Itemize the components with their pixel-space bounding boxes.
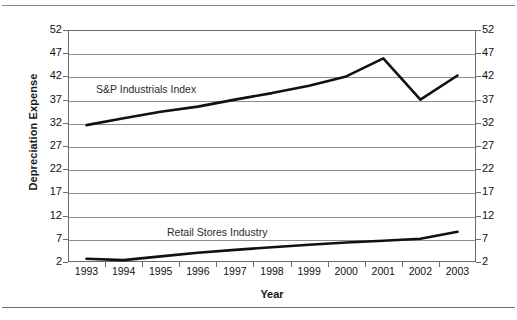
y-tick-mark-left-47 (63, 53, 68, 54)
x-tick-mark-5 (253, 262, 254, 267)
y-tick-label-right-42: 42 (482, 70, 516, 81)
y-tick-label-left-27: 27 (28, 140, 62, 151)
y-tick-mark-right-17 (476, 192, 481, 193)
y-tick-label-right-27: 27 (482, 140, 516, 151)
x-tick-mark-2 (142, 262, 143, 267)
y-tick-label-right-17: 17 (482, 186, 516, 197)
y-tick-mark-right-37 (476, 100, 481, 101)
y-tick-label-right-52: 52 (482, 24, 516, 35)
y-tick-mark-right-32 (476, 123, 481, 124)
y-tick-mark-left-37 (63, 100, 68, 101)
gridline-y-32 (69, 124, 475, 125)
y-tick-mark-left-42 (63, 76, 68, 77)
y-tick-label-left-32: 32 (28, 117, 62, 128)
y-tick-label-left-47: 47 (28, 47, 62, 58)
y-tick-label-right-22: 22 (482, 163, 516, 174)
y-tick-mark-left-12 (63, 216, 68, 217)
y-tick-label-left-12: 12 (28, 210, 62, 221)
gridline-y-22 (69, 170, 475, 171)
x-tick-label-2003: 2003 (434, 266, 480, 277)
y-tick-mark-left-27 (63, 146, 68, 147)
y-tick-label-right-12: 12 (482, 210, 516, 221)
y-tick-mark-left-7 (63, 239, 68, 240)
y-tick-label-left-7: 7 (28, 233, 62, 244)
bottom-divider-rule (2, 307, 515, 308)
gridline-y-42 (69, 77, 475, 78)
y-tick-mark-right-47 (476, 53, 481, 54)
y-tick-label-left-17: 17 (28, 186, 62, 197)
x-tick-mark-7 (328, 262, 329, 267)
y-tick-label-right-47: 47 (482, 47, 516, 58)
y-tick-mark-left-17 (63, 192, 68, 193)
y-tick-mark-left-52 (63, 30, 68, 31)
series-label-retail-stores-industry: Retail Stores Industry (167, 226, 267, 238)
y-tick-mark-left-32 (63, 123, 68, 124)
gridline-y-17 (69, 193, 475, 194)
y-tick-label-left-37: 37 (28, 94, 62, 105)
x-tick-mark-4 (216, 262, 217, 267)
chart-figure: Depreciation Expense S&P Industrials Ind… (0, 0, 517, 320)
y-tick-mark-right-27 (476, 146, 481, 147)
x-axis-title: Year (68, 288, 476, 300)
y-tick-label-right-32: 32 (482, 117, 516, 128)
y-tick-mark-right-52 (476, 30, 481, 31)
y-tick-mark-left-22 (63, 169, 68, 170)
y-tick-mark-right-2 (476, 262, 481, 263)
y-tick-label-left-22: 22 (28, 163, 62, 174)
plot-area (68, 30, 476, 262)
top-divider-rule (2, 5, 515, 6)
y-tick-mark-right-7 (476, 239, 481, 240)
y-tick-mark-left-2 (63, 262, 68, 263)
y-axis-title: Depreciation Expense (27, 37, 39, 227)
x-tick-mark-3 (179, 262, 180, 267)
y-tick-mark-right-22 (476, 169, 481, 170)
y-tick-label-left-52: 52 (28, 24, 62, 35)
x-tick-mark-10 (439, 262, 440, 267)
x-tick-mark-8 (365, 262, 366, 267)
series-label-sp-industrials-index: S&P Industrials Index (96, 83, 196, 95)
y-tick-mark-right-12 (476, 216, 481, 217)
x-tick-mark-1 (105, 262, 106, 267)
gridline-y-37 (69, 101, 475, 102)
x-tick-mark-6 (291, 262, 292, 267)
gridline-y-27 (69, 147, 475, 148)
y-tick-label-right-2: 2 (482, 256, 516, 267)
gridline-y-7 (69, 240, 475, 241)
y-tick-label-left-2: 2 (28, 256, 62, 267)
x-tick-mark-9 (402, 262, 403, 267)
y-tick-label-right-7: 7 (482, 233, 516, 244)
gridline-y-47 (69, 54, 475, 55)
y-tick-label-right-37: 37 (482, 94, 516, 105)
gridline-y-12 (69, 217, 475, 218)
y-tick-mark-right-42 (476, 76, 481, 77)
y-tick-label-left-42: 42 (28, 70, 62, 81)
